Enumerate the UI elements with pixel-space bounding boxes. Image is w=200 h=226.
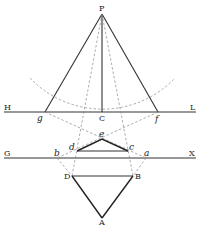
label-G: G <box>4 149 10 158</box>
label-H: H <box>4 103 11 112</box>
label-D: D <box>64 172 70 181</box>
label-g: g <box>37 113 43 123</box>
label-c: c <box>129 142 134 152</box>
dash-P-D <box>72 14 102 176</box>
label-C: C <box>99 114 105 123</box>
label-a: a <box>144 148 149 158</box>
label-f: f <box>154 114 160 124</box>
perspective-triangle <box>77 139 128 151</box>
label-P: P <box>99 4 105 13</box>
label-d: d <box>69 142 75 152</box>
perspective-diagram: P H L C g f e d c G X b a D B A <box>0 0 200 226</box>
label-B: B <box>135 172 141 181</box>
line-D-A <box>72 176 102 218</box>
label-A: A <box>98 218 105 226</box>
line-P-f <box>102 14 158 112</box>
label-X: X <box>189 149 195 158</box>
label-L: L <box>190 103 196 112</box>
line-B-A <box>102 176 133 218</box>
label-b: b <box>54 148 60 158</box>
line-P-g <box>45 14 102 112</box>
label-e: e <box>99 129 104 139</box>
